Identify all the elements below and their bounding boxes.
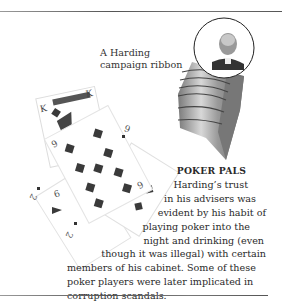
bottom-rule [0, 295, 268, 296]
sidebar-text-line: playing poker into the [60, 220, 266, 234]
sidebar-text-line: Harding’s trust [60, 178, 266, 192]
sidebar-text-line: members of his cabinet. Some of these [60, 261, 266, 275]
sidebar-text-line: poker players were later implicated in [60, 275, 266, 289]
caption-line: A Harding [100, 47, 182, 59]
poker-pals-sidebar: POKER PALS Harding’s trust in his advise… [60, 164, 266, 303]
sidebar-text-line: in his advisers was [60, 192, 266, 206]
sidebar-heading: POKER PALS [60, 164, 266, 178]
sidebar-text-line: though it was illegal) with certain [60, 247, 266, 261]
figure-caption: A Harding campaign ribbon [100, 47, 182, 71]
sidebar-text-line: night and drinking (even [60, 234, 266, 248]
caption-line: campaign ribbon [100, 59, 182, 71]
sidebar-text-line: evident by his habit of [60, 206, 266, 220]
sidebar-text-line: corruption scandals. [60, 289, 266, 303]
